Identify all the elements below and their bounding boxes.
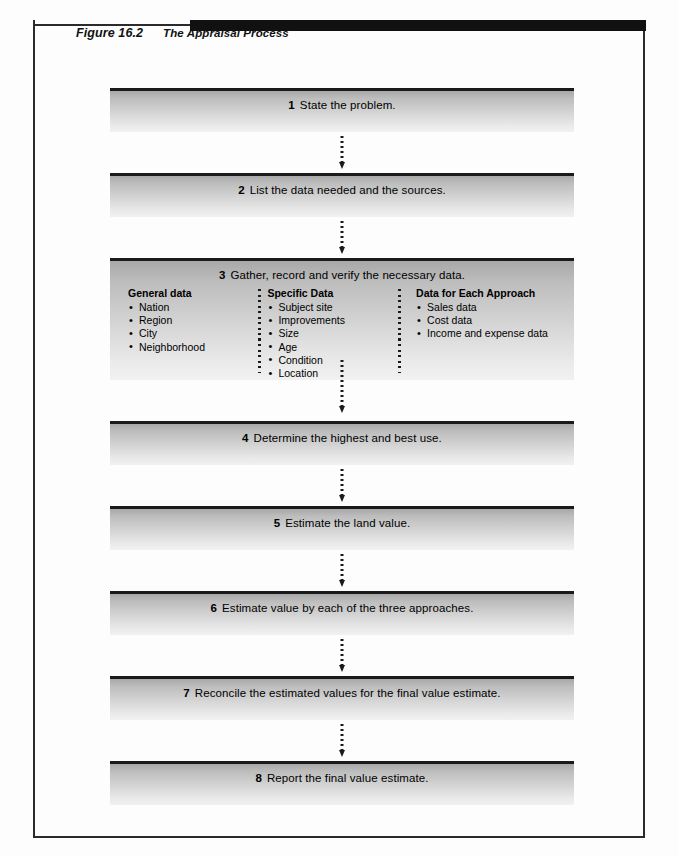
flow-step-8: 8Report the final value estimate. <box>110 761 574 805</box>
connector-3-to-4 <box>110 380 574 421</box>
connector-2-to-3 <box>110 217 574 258</box>
list-item: Cost data <box>416 314 574 327</box>
flow-step-4: 4Determine the highest and best use. <box>110 421 574 465</box>
dotted-line <box>341 554 344 580</box>
flow-step-2-text: List the data needed and the sources. <box>250 184 446 196</box>
data-column-approach-heading: Data for Each Approach <box>416 287 574 299</box>
column-divider-dotted <box>398 289 401 373</box>
figure-caption: Figure 16.2 The Appraisal Process <box>76 26 289 40</box>
data-column-general-heading: General data <box>128 287 267 299</box>
flow-step-1: 1State the problem. <box>110 88 574 132</box>
flow-step-8-text: Report the final value estimate. <box>267 772 429 784</box>
dotted-line <box>341 724 344 750</box>
flow-step-2-number: 2 <box>238 184 245 196</box>
flow-step-3-number: 3 <box>219 269 226 281</box>
flow-step-8-number: 8 <box>255 772 262 784</box>
dotted-line <box>341 221 344 247</box>
connector-7-to-8 <box>110 720 574 761</box>
list-item: Nation <box>128 301 267 314</box>
data-column-general: General data Nation Region City Neighbor… <box>128 287 267 380</box>
flow-step-2-title: 2List the data needed and the sources. <box>110 176 574 196</box>
flow-step-1-title: 1State the problem. <box>110 91 574 111</box>
list-item: Region <box>128 314 267 327</box>
list-item: Size <box>267 327 416 340</box>
data-column-specific-heading: Specific Data <box>267 287 416 299</box>
flow-step-7-text: Reconcile the estimated values for the f… <box>195 687 501 699</box>
flow-step-2: 2List the data needed and the sources. <box>110 173 574 217</box>
data-column-general-list: Nation Region City Neighborhood <box>128 301 267 354</box>
flow-step-1-number: 1 <box>288 99 295 111</box>
arrow-down-icon <box>339 495 345 502</box>
list-item: Neighborhood <box>128 341 267 354</box>
flow-step-7-number: 7 <box>183 687 190 699</box>
dotted-line <box>341 360 344 406</box>
flow-step-1-text: State the problem. <box>300 99 396 111</box>
dotted-line <box>341 136 344 162</box>
connector-5-to-6 <box>110 550 574 591</box>
list-item: Improvements <box>267 314 416 327</box>
flow-step-8-title: 8Report the final value estimate. <box>110 764 574 784</box>
flow-step-3-text: Gather, record and verify the necessary … <box>230 269 465 281</box>
arrow-down-icon <box>339 162 345 169</box>
column-divider-dotted <box>258 289 261 373</box>
list-item: Age <box>267 341 416 354</box>
flow-step-5-text: Estimate the land value. <box>285 517 410 529</box>
flow-step-7-title: 7Reconcile the estimated values for the … <box>110 679 574 699</box>
dotted-line <box>341 469 344 495</box>
arrow-down-icon <box>339 665 345 672</box>
appraisal-process-flowchart: 1State the problem. 2List the data neede… <box>110 88 574 805</box>
flow-step-5-title: 5Estimate the land value. <box>110 509 574 529</box>
data-column-approach-list: Sales data Cost data Income and expense … <box>416 301 574 341</box>
flow-step-5: 5Estimate the land value. <box>110 506 574 550</box>
arrow-down-icon <box>339 406 345 413</box>
arrow-down-icon <box>339 247 345 254</box>
flow-step-6: 6Estimate value by each of the three app… <box>110 591 574 635</box>
flow-step-6-text: Estimate value by each of the three appr… <box>222 602 473 614</box>
figure-title: The Appraisal Process <box>163 27 289 39</box>
list-item: City <box>128 327 267 340</box>
figure-number: Figure 16.2 <box>76 26 143 40</box>
arrow-down-icon <box>339 750 345 757</box>
flow-step-3-title: 3Gather, record and verify the necessary… <box>110 261 574 281</box>
connector-1-to-2 <box>110 132 574 173</box>
data-column-approach: Data for Each Approach Sales data Cost d… <box>416 287 574 380</box>
flow-step-7: 7Reconcile the estimated values for the … <box>110 676 574 720</box>
flow-step-6-title: 6Estimate value by each of the three app… <box>110 594 574 614</box>
flow-step-4-number: 4 <box>242 432 249 444</box>
list-item: Sales data <box>416 301 574 314</box>
arrow-down-icon <box>339 580 345 587</box>
dotted-line <box>341 639 344 665</box>
connector-4-to-5 <box>110 465 574 506</box>
flow-step-6-number: 6 <box>211 602 218 614</box>
flow-step-5-number: 5 <box>274 517 281 529</box>
connector-6-to-7 <box>110 635 574 676</box>
flow-step-4-title: 4Determine the highest and best use. <box>110 424 574 444</box>
list-item: Income and expense data <box>416 327 574 340</box>
list-item: Subject site <box>267 301 416 314</box>
flow-step-4-text: Determine the highest and best use. <box>254 432 442 444</box>
